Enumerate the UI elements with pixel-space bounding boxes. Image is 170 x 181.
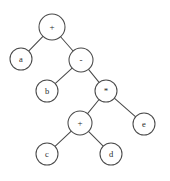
tree-edge-n5-n7 <box>55 131 71 146</box>
node-label: c <box>45 149 49 159</box>
expression-tree-figure: +a-b*+ecd <box>0 0 170 181</box>
tree-node-c[interactable]: c <box>36 143 58 165</box>
tree-edge-n4-n5 <box>88 100 99 114</box>
tree-nodes-group: +a-b*+ecd <box>10 14 155 165</box>
tree-edge-n0-n2 <box>61 37 74 51</box>
tree-node-a[interactable]: a <box>10 48 32 70</box>
tree-edge-n2-n4 <box>89 69 100 82</box>
tree-diagram-canvas: +a-b*+ecd <box>0 0 170 181</box>
tree-node-e[interactable]: e <box>133 113 155 135</box>
tree-node-plus[interactable]: + <box>68 111 92 135</box>
tree-node-multiply[interactable]: * <box>95 80 117 102</box>
tree-node-d[interactable]: d <box>100 143 122 165</box>
tree-edge-n0-n1 <box>29 36 43 51</box>
tree-edge-n5-n8 <box>88 131 103 146</box>
tree-edge-n4-n6 <box>114 98 135 117</box>
tree-edge-n2-n3 <box>55 68 72 84</box>
tree-node-b[interactable]: b <box>36 80 58 102</box>
node-label: b <box>45 86 49 96</box>
node-label: + <box>49 22 54 32</box>
tree-node-minus[interactable]: - <box>69 48 93 72</box>
tree-node-plus[interactable]: + <box>39 14 65 40</box>
node-label: - <box>80 55 83 65</box>
node-label: * <box>104 86 109 96</box>
node-label: + <box>77 118 82 128</box>
node-label: a <box>19 54 23 64</box>
node-label: e <box>142 119 146 129</box>
